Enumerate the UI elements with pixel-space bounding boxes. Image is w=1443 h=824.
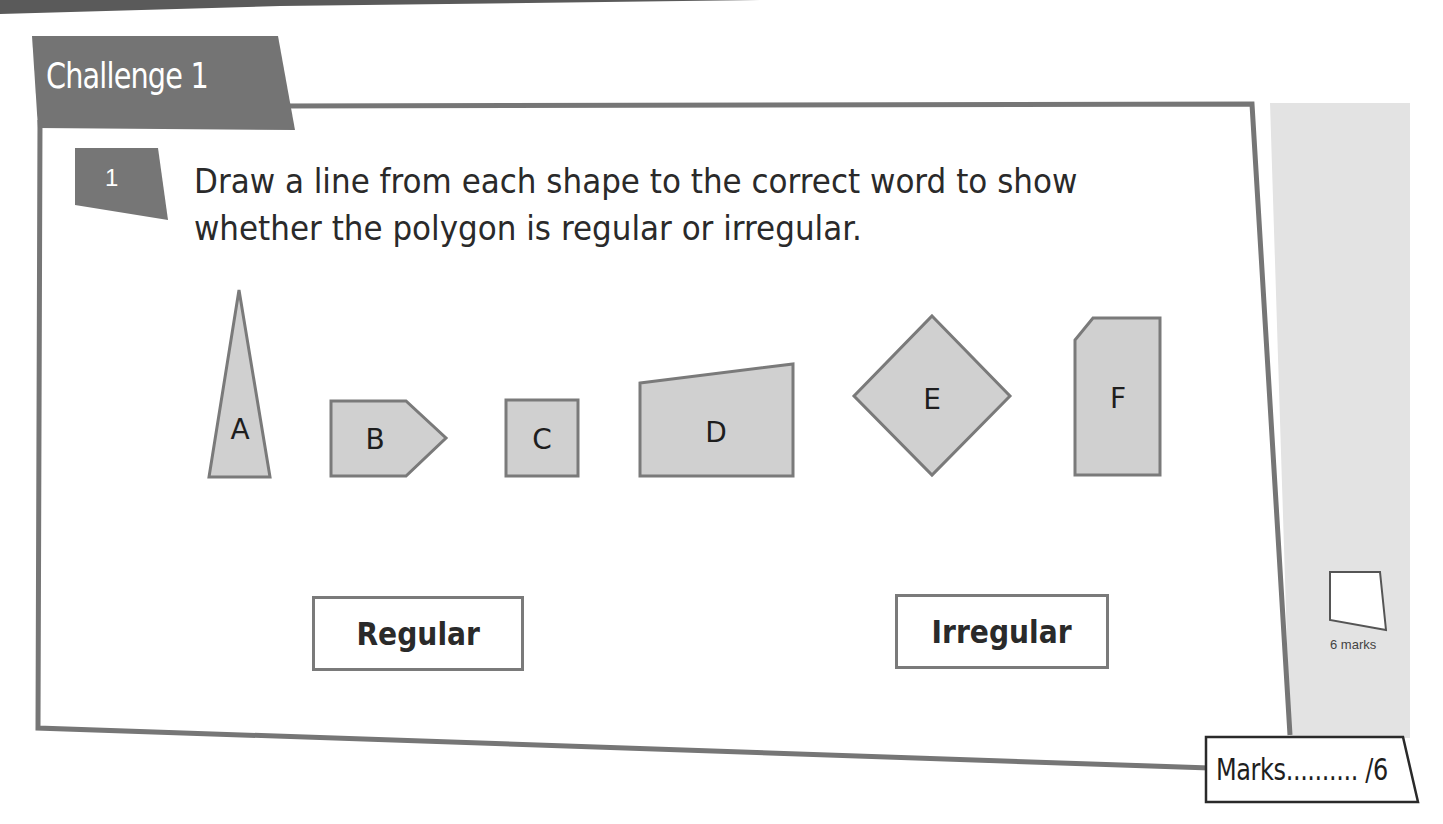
shape-label-a: A [220, 413, 260, 446]
question-text: Draw a line from each shape to the corre… [194, 158, 1096, 252]
top-header-strip [0, 0, 760, 14]
marks-total-text: Marks.......... /6 [1216, 752, 1388, 787]
shape-label-b: B [355, 423, 395, 456]
regular-word-box[interactable]: Regular [312, 596, 524, 671]
page-graphics [0, 0, 1443, 824]
challenge-title: Challenge 1 [46, 56, 208, 96]
question-number-tab [75, 148, 168, 220]
marks-count-label: 6 marks [1330, 637, 1376, 652]
question-number: 1 [105, 164, 118, 192]
irregular-label: Irregular [932, 613, 1072, 651]
marks-tick-box[interactable] [1330, 572, 1386, 630]
shape-label-e: E [912, 383, 952, 416]
regular-label: Regular [356, 615, 480, 653]
shape-a [209, 290, 270, 477]
shape-label-f: F [1098, 382, 1138, 415]
shape-label-c: C [522, 423, 562, 456]
irregular-word-box[interactable]: Irregular [895, 594, 1109, 669]
shape-label-d: D [696, 416, 736, 449]
